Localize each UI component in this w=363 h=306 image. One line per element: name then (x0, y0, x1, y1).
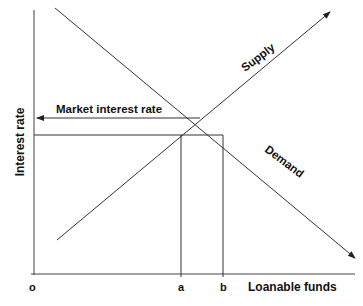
x-axis-label: Loanable funds (248, 280, 337, 294)
market-rate-label: Market interest rate (56, 103, 162, 115)
y-axis-label: Interest rate (13, 107, 27, 176)
tick-b-label: b (220, 281, 227, 293)
demand-curve (55, 8, 355, 258)
demand-label: Demand (263, 143, 306, 180)
tick-a-label: a (178, 281, 185, 293)
origin-label: o (29, 281, 36, 293)
supply-curve (57, 12, 330, 240)
supply-label: Supply (239, 41, 277, 74)
loanable-funds-diagram: Market interest rate Supply Demand Inter… (0, 0, 363, 306)
